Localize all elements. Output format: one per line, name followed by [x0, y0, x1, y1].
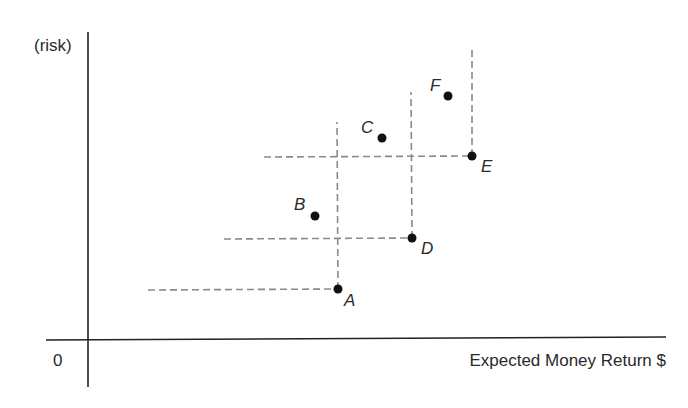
point-f	[444, 92, 453, 101]
guide-a-vertical	[337, 122, 338, 289]
point-c	[378, 134, 387, 143]
risk-return-diagram: A B C D E F (risk) 0 Expected Money Retu…	[0, 0, 688, 408]
guide-d-vertical	[411, 92, 412, 238]
x-axis	[46, 337, 666, 340]
point-b	[311, 212, 320, 221]
data-points	[311, 92, 477, 294]
point-label-b: B	[294, 195, 305, 214]
point-label-d: D	[421, 239, 433, 258]
origin-label: 0	[53, 351, 62, 370]
y-axis-label: (risk)	[34, 36, 72, 55]
point-label-a: A	[343, 291, 355, 310]
guide-d-horizontal	[224, 238, 412, 239]
guide-a-horizontal	[148, 289, 338, 290]
x-axis-label: Expected Money Return $	[469, 351, 666, 370]
guide-e-horizontal	[264, 156, 472, 157]
diagram-canvas: A B C D E F (risk) 0 Expected Money Retu…	[0, 0, 688, 408]
point-e	[468, 152, 477, 161]
point-d	[408, 234, 417, 243]
point-a	[334, 285, 343, 294]
point-label-c: C	[361, 118, 374, 137]
point-label-f: F	[430, 76, 442, 95]
point-label-e: E	[481, 157, 493, 176]
